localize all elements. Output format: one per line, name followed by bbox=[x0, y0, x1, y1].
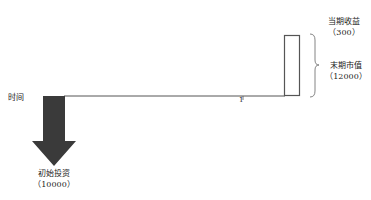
outflow-arrow-icon bbox=[32, 96, 76, 166]
current-income-label: 当期收益 （300） bbox=[322, 16, 366, 38]
initial-investment-label: 初始投资 （10000） bbox=[30, 168, 78, 190]
ending-market-value-label: 末期市值 （12000） bbox=[322, 60, 370, 82]
period-tick-label: 1 bbox=[239, 95, 243, 106]
initial-investment-value: （10000） bbox=[30, 179, 78, 190]
current-income-title: 当期收益 bbox=[322, 16, 366, 27]
current-income-value: （300） bbox=[322, 27, 366, 38]
ending-market-value-title: 末期市值 bbox=[322, 60, 370, 71]
ending-market-value-value: （12000） bbox=[322, 71, 370, 82]
time-label: 时间 bbox=[8, 92, 24, 103]
initial-investment-title: 初始投资 bbox=[30, 168, 78, 179]
curly-brace-icon bbox=[310, 34, 319, 97]
inflow-box bbox=[285, 36, 300, 96]
